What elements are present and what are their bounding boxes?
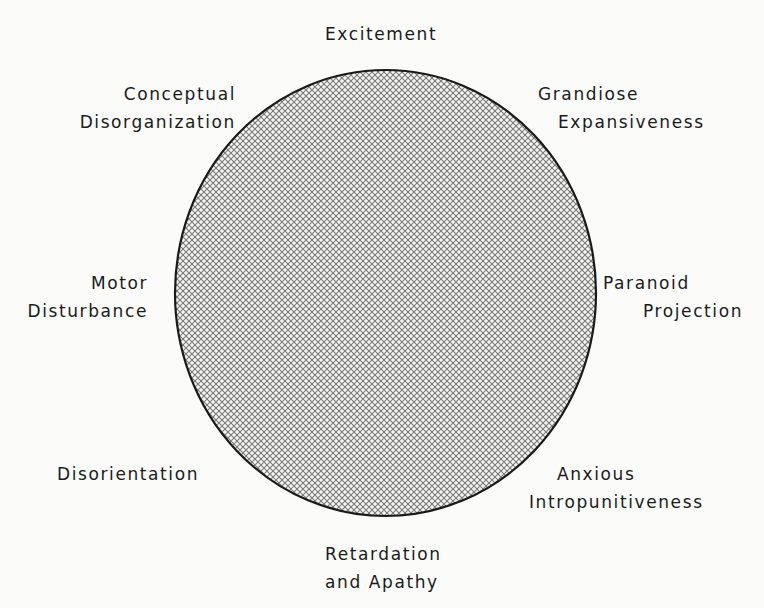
label-line: Excitement [325,20,437,48]
label-line: Disorientation [57,460,199,488]
circumplex-diagram: Excitement Conceptual Disorganization Gr… [0,0,764,608]
label-line: Conceptual [80,80,236,108]
label-line: Motor [28,269,149,297]
label-line: and Apathy [325,568,442,596]
label-paranoid-projection: Paranoid Projection [603,269,743,325]
label-anxious-intropunitiveness: Anxious Intropunitiveness [529,460,704,516]
label-line: Intropunitiveness [529,488,704,516]
label-line: Paranoid [603,269,743,297]
label-line: Retardation [325,540,442,568]
label-line: Disorganization [80,108,236,136]
label-line: Expansiveness [538,108,705,136]
label-motor-disturbance: Motor Disturbance [28,269,149,325]
label-excitement: Excitement [325,20,437,48]
label-line: Disturbance [28,297,149,325]
label-line: Projection [603,297,743,325]
label-line: Anxious [529,460,704,488]
label-disorientation: Disorientation [57,460,199,488]
hatched-circle [175,70,596,516]
label-retardation-and-apathy: Retardation and Apathy [325,540,442,596]
label-grandiose-expansiveness: Grandiose Expansiveness [538,80,705,136]
label-line: Grandiose [538,80,705,108]
label-conceptual-disorganization: Conceptual Disorganization [80,80,236,136]
